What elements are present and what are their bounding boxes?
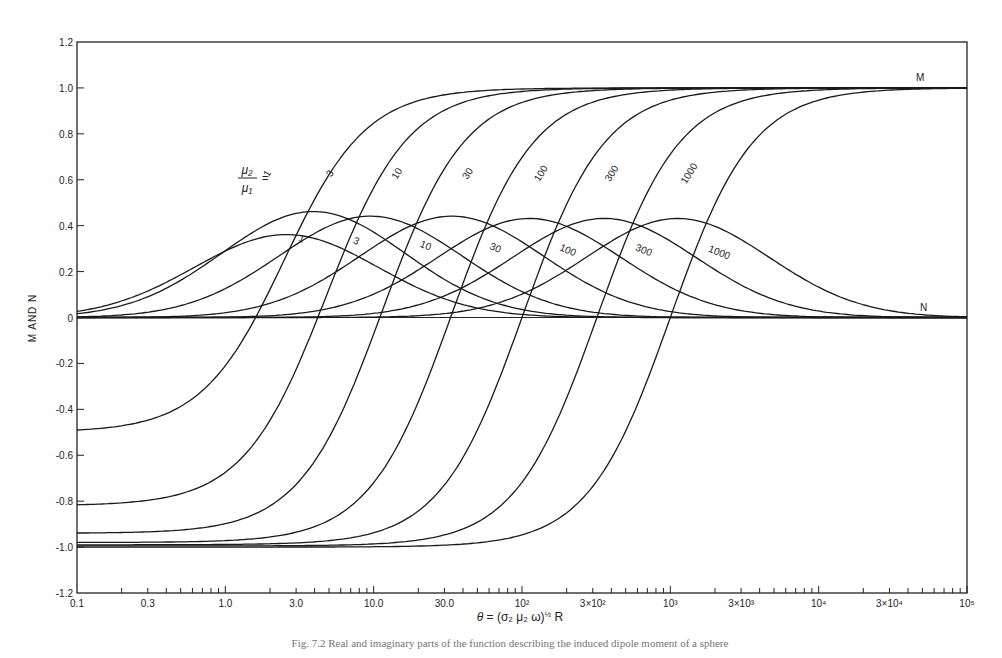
y-tick-label: 0.8 (59, 129, 73, 140)
y-tick-label: -0.8 (56, 496, 74, 507)
n-curve-label: 300 (634, 242, 654, 259)
m-curve-label: 300 (602, 163, 620, 183)
chart: 1.21.00.80.60.40.20-0.2-0.4-0.6-0.8-1.0-… (0, 0, 1002, 658)
x-axis: 0.10.31.03.010.030.010²3×10²10³3×10³10⁴3… (70, 586, 975, 609)
x-tick-label: 3×10³ (728, 598, 755, 609)
n-curve-label: 30 (488, 240, 503, 255)
y-tick-label: 1.0 (59, 83, 73, 94)
x-tick-label: 0.3 (141, 598, 155, 609)
m-curve-label: 30 (460, 165, 475, 181)
n-curve-1 (77, 235, 967, 318)
n-curve-30 (77, 216, 967, 317)
n-curves (77, 212, 967, 318)
ratio-parameter-label: μ₂ μ₁ = (238, 163, 268, 195)
m-curve-label: 10 (389, 165, 404, 181)
m-curve-10 (77, 88, 967, 533)
y-tick-label: 0.2 (59, 267, 73, 278)
y-tick-label: -0.2 (56, 358, 74, 369)
y-tick-label: -0.6 (56, 450, 74, 461)
n-curve-label: 3 (352, 235, 362, 247)
x-tick-label: 3×10² (580, 598, 607, 609)
y-tick-label: 1.2 (59, 37, 73, 48)
n-curve-1000 (77, 219, 967, 318)
n-curve-label: 100 (558, 242, 578, 259)
y-tick-label: 0 (67, 313, 73, 324)
m-curve-label: 3 (324, 168, 337, 179)
figure-caption: Fig. 7.2 Real and imaginary parts of the… (130, 637, 890, 649)
n-curve-label: 1000 (707, 243, 732, 262)
n-curve-10 (77, 216, 967, 317)
x-tick-label: 3×10⁴ (876, 598, 903, 609)
n-curve-3 (77, 212, 967, 318)
m-curve-3 (77, 88, 967, 505)
m-family-label: M (916, 72, 924, 83)
n-curve-label: 10 (419, 238, 434, 253)
x-tick-label: 30.0 (435, 598, 455, 609)
x-tick-label: 1.0 (218, 598, 232, 609)
y-axis-label: M AND N (27, 294, 38, 343)
curve-labels: 13103010030010001310301003001000 (261, 161, 732, 262)
y-tick-label: 0.4 (59, 221, 73, 232)
svg-text:=: = (262, 172, 268, 184)
m-curve-label: 1000 (678, 161, 699, 186)
n-curve-300 (77, 219, 967, 318)
n-curve-100 (77, 219, 967, 318)
svg-text:μ₁: μ₁ (241, 181, 253, 195)
y-tick-label: -1.0 (56, 542, 74, 553)
x-axis-label: θ = (σ₂ μ₂ ω)½ R (477, 610, 564, 625)
svg-text:μ₂: μ₂ (240, 163, 253, 177)
x-tick-label: 0.1 (70, 598, 84, 609)
x-tick-label: 10² (515, 598, 530, 609)
m-curve-30 (77, 88, 967, 543)
x-tick-label: 3.0 (289, 598, 303, 609)
n-family-label: N (920, 302, 927, 313)
x-tick-label: 10.0 (364, 598, 384, 609)
m-curve-label: 100 (532, 163, 550, 183)
x-tick-label: 10³ (663, 598, 678, 609)
y-tick-label: 0.6 (59, 175, 73, 186)
x-tick-label: 10⁴ (811, 598, 826, 609)
x-tick-label: 10⁵ (959, 598, 974, 609)
y-tick-label: -0.4 (56, 404, 74, 415)
